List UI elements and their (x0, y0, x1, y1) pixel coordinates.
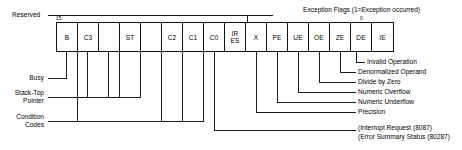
register-cell-bit10-c2-line1: C2 (168, 34, 177, 41)
label-divide-by-zero: Divide by Zero (358, 78, 401, 86)
label-stack-top-line2: Pointer (23, 97, 44, 104)
reserved-label: Reserved (12, 11, 40, 19)
fpu-status-word-diagram: Reserved Exception Flags (1=Exception oc… (0, 0, 462, 150)
register-cell-bit9-c1: C1 (183, 23, 204, 51)
leader-divzero-vert (319, 52, 320, 83)
register-cell-bit2-ze-line1: ZE (336, 34, 345, 41)
register-cell-bit15-busy: B (57, 23, 78, 51)
label-stack-top-pointer: Stack-Top Pointer (0, 89, 44, 106)
label-precision: Precision (358, 108, 385, 116)
register-cell-bit0-ie: IE (372, 23, 393, 51)
leader-precision-horz (256, 112, 356, 113)
label-numeric-overflow: Numeric Overflow (358, 88, 410, 96)
bit-index-high: 15 (56, 16, 62, 21)
label-busy-line1: Busy (29, 74, 44, 81)
register-cell-bit11-st0 (141, 23, 162, 51)
register-cell-bit8-c0-line1: C0 (210, 34, 219, 41)
leader-underflow-horz (277, 102, 356, 103)
exception-flags-header: Exception Flags (1=Exception occurred) (303, 6, 420, 14)
label-numeric-underflow: Numeric Underflow (358, 98, 414, 106)
register-cell-bit14-c3-line1: C3 (84, 34, 93, 41)
register-cell-bit8-c0: C0 (204, 23, 225, 51)
leader-denormal-horz (340, 72, 356, 73)
leader-cc-vert-c1 (182, 52, 183, 122)
reserved-leader-line (48, 15, 273, 16)
register-cell-bit3-oe: OE (309, 23, 330, 51)
register-cell-bit7-ir-es: IRES (225, 23, 246, 51)
label-condition-line2: Codes (25, 121, 44, 128)
register-cell-bit1-de-line1: DE (356, 34, 365, 41)
label-denormalized-operand: Denormalized Operand (358, 68, 426, 76)
leader-overflow-vert (298, 52, 299, 93)
leader-ires-horz (214, 130, 356, 131)
label-error-summary-status: (Error Summary Status (80287) (358, 133, 450, 141)
register-cell-bit13-st2 (99, 23, 120, 51)
bit-index-low: 0 (360, 16, 363, 21)
register-cell-bit5-pe-line1: PE (272, 34, 281, 41)
label-condition-line1: Condition (16, 113, 44, 120)
leader-cc-vert-c0 (203, 52, 204, 122)
status-word-register: BC3STC2C1C0IRESXPEUEOEZEDEIE (56, 22, 394, 52)
register-cell-bit15-busy-line1: B (65, 34, 70, 41)
register-cell-bit3-oe-line1: OE (314, 34, 324, 41)
label-condition-codes: Condition Codes (0, 113, 44, 130)
leader-cc-vert-c3 (77, 52, 78, 122)
leader-cc-vert-c2 (161, 52, 162, 122)
register-cell-bit6-x-line1: X (254, 34, 259, 41)
label-interrupt-request: (Interrupt Request (8087) (358, 124, 432, 132)
register-cell-bit0-ie-line1: IE (379, 34, 386, 41)
leader-overflow-horz (298, 92, 356, 93)
leader-busy-vert (66, 52, 67, 79)
register-cell-bit1-de: DE (351, 23, 372, 51)
register-cell-bit7-ir-es-line1: IR (230, 30, 239, 37)
label-busy: Busy (0, 74, 44, 82)
leader-invalidop-horz (356, 62, 365, 63)
label-invalid-operation: Invalid Operation (367, 58, 417, 66)
register-cell-bit10-c2: C2 (162, 23, 183, 51)
register-cell-bit12-st-line1: ST (126, 34, 135, 41)
register-cell-bit12-st: ST (120, 23, 141, 51)
leader-ires-vert (214, 52, 215, 131)
register-cell-bit4-ue: UE (288, 23, 309, 51)
leader-cc-horz (48, 121, 204, 122)
leader-st-vert-2 (108, 52, 109, 98)
register-cell-bit14-c3: C3 (78, 23, 99, 51)
register-cell-bit7-ir-es-line2: ES (230, 37, 239, 44)
leader-st-vert-1 (87, 52, 88, 98)
leader-st-horz (48, 97, 141, 98)
label-stack-top-line1: Stack-Top (15, 89, 44, 96)
leader-divzero-horz (319, 82, 356, 83)
leader-underflow-vert (277, 52, 278, 103)
register-cell-bit4-ue-line1: UE (293, 34, 302, 41)
register-cell-bit9-c1-line1: C1 (189, 34, 198, 41)
leader-denormal-vert (340, 52, 341, 73)
register-cell-bit6-x: X (246, 23, 267, 51)
register-cell-bit5-pe: PE (267, 23, 288, 51)
leader-st-vert-4 (140, 52, 141, 98)
register-cell-bit2-ze: ZE (330, 23, 351, 51)
leader-busy-horz (48, 78, 67, 79)
leader-precision-vert (256, 52, 257, 113)
leader-st-vert-3 (119, 52, 120, 98)
